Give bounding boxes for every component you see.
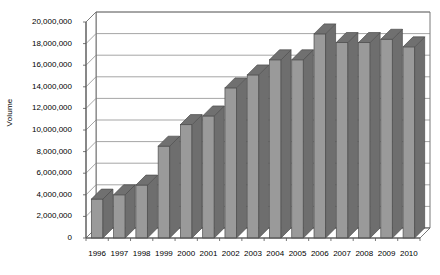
x-axis-tick-labels: 1996199719981999200020012002200320042005… — [0, 0, 440, 275]
bar-chart: Volume 02,000,0004,000,0006,000,0008,000… — [0, 0, 440, 275]
x-tick-label: 2010 — [396, 250, 422, 258]
